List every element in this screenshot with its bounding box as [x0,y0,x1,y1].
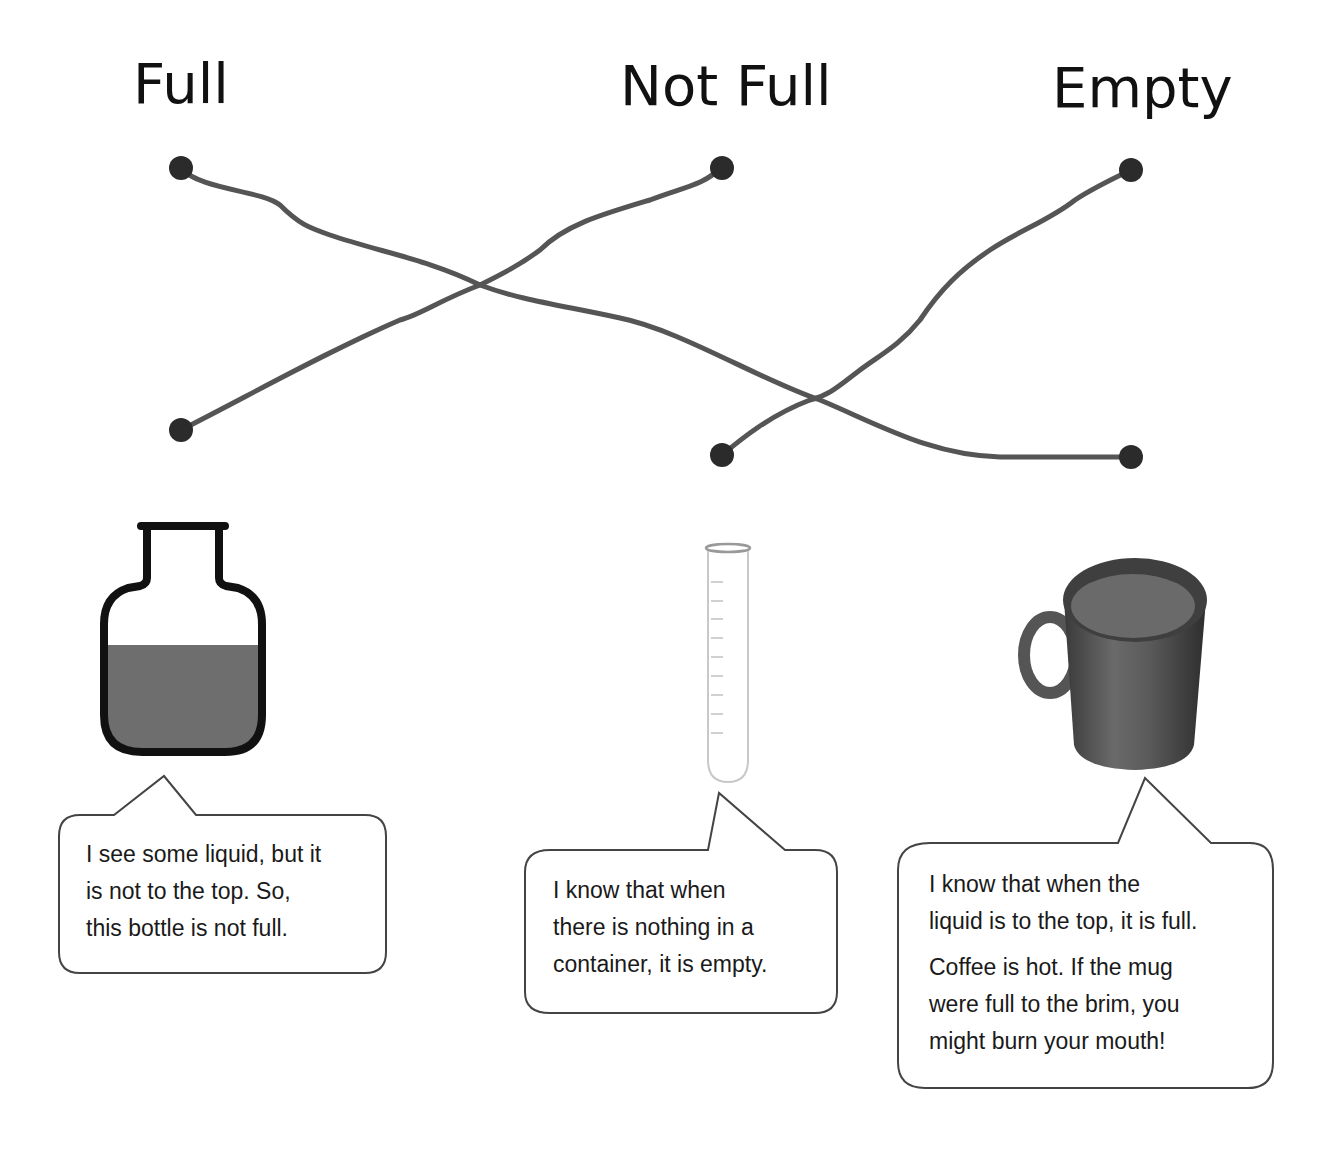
bottle-icon [104,526,262,752]
coffee-mug-icon [1024,558,1207,770]
bubble-text-mug: I know that when the liquid is to the to… [929,866,1259,940]
bubble-text-bottle: I see some liquid, but it is not to the … [86,836,376,947]
bubble-text-test-tube: I know that when there is nothing in a c… [553,872,823,983]
bubble-text-mug-extra: Coffee is hot. If the mug were full to t… [929,949,1259,1060]
test-tube-icon [706,544,750,782]
